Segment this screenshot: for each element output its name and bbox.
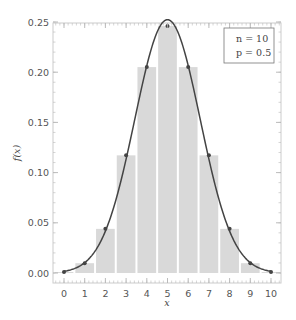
bar-x-4 [137, 67, 156, 273]
legend-line-p: p = 0.5 [236, 47, 271, 58]
legend: n = 10 p = 0.5 [224, 28, 274, 63]
y-tick-label-0.10: 0.10 [28, 167, 49, 178]
x-tick-label-9: 9 [247, 288, 253, 299]
y-tick-label-0.15: 0.15 [28, 117, 49, 128]
pmf-point-x-3 [124, 153, 128, 157]
bar-x-3 [117, 155, 136, 273]
bar-x-6 [179, 67, 198, 273]
pmf-point-x-10 [269, 270, 273, 274]
pmf-point-x-4 [145, 65, 149, 69]
legend-line-n: n = 10 [236, 33, 268, 44]
pmf-point-x-6 [186, 65, 190, 69]
bar-x-2 [96, 229, 115, 273]
x-tick-label-3: 3 [123, 288, 129, 299]
bar-x-7 [200, 155, 219, 273]
y-tick-label-0.25: 0.25 [28, 17, 49, 28]
x-tick-label-0: 0 [61, 288, 67, 299]
bar-x-8 [220, 229, 239, 273]
x-tick-label-2: 2 [102, 288, 108, 299]
pmf-point-x-8 [228, 227, 232, 231]
pmf-point-x-9 [248, 261, 252, 265]
y-tick-label-0.00: 0.00 [28, 268, 49, 279]
x-tick-label-8: 8 [227, 288, 233, 299]
x-axis-label: x [164, 297, 170, 308]
pmf-point-x-0 [62, 270, 66, 274]
x-tick-label-10: 10 [265, 288, 277, 299]
binomial-chart: 0123456789100.000.050.100.150.200.25 n =… [0, 0, 296, 320]
y-tick-label-0.05: 0.05 [28, 217, 49, 228]
y-axis-label: f(x) [11, 145, 22, 163]
pmf-point-x-1 [83, 261, 87, 265]
x-tick-label-4: 4 [144, 288, 150, 299]
x-tick-label-1: 1 [82, 288, 88, 299]
pmf-point-x-2 [103, 227, 107, 231]
y-tick-label-0.20: 0.20 [28, 67, 49, 78]
bar-x-5 [158, 26, 177, 273]
x-tick-label-6: 6 [185, 288, 191, 299]
pmf-point-x-7 [207, 153, 211, 157]
x-tick-label-7: 7 [206, 288, 212, 299]
